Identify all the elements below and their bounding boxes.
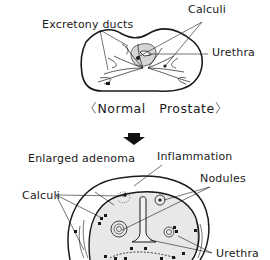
label-urethra-normal: Urethra <box>212 47 255 59</box>
down-arrow-icon <box>123 133 145 145</box>
label-urethra-enlarged: Urethra <box>216 248 259 260</box>
normal-prostate-illustration <box>81 22 208 91</box>
prostate-diagram <box>0 0 270 260</box>
label-excretory-ducts: Excretony ducts <box>42 19 133 31</box>
label-calculi-enlarged: Calculi <box>22 190 60 202</box>
label-nodules: Nodules <box>200 173 246 185</box>
label-calculi-normal: Calculi <box>188 4 226 16</box>
caption-text: Normal Prostate <box>98 101 215 116</box>
enlarged-prostate-illustration <box>56 165 212 260</box>
caption-bracket-left: 〈 <box>84 101 98 116</box>
label-enlarged-adenoma: Enlarged adenoma <box>28 153 135 165</box>
label-inflammation: Inflammation <box>157 151 233 163</box>
normal-prostate-caption: 〈Normal Prostate〉 <box>84 98 228 117</box>
caption-bracket-right: 〉 <box>215 101 229 116</box>
